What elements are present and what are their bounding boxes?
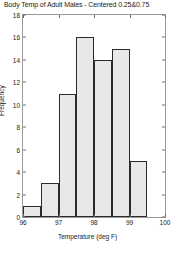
x-tick-mark: [23, 15, 24, 18]
y-tick-mark: [23, 172, 26, 173]
y-tick-mark: [23, 149, 26, 150]
plot-area: [23, 15, 165, 217]
y-tick-mark: [162, 194, 165, 195]
x-tick-label: 98: [90, 219, 97, 226]
y-tick-label: 4: [16, 169, 20, 176]
y-tick-mark: [23, 194, 26, 195]
y-tick-mark: [23, 82, 26, 83]
plot-frame: 02468101214161896979899100: [22, 14, 166, 218]
y-tick-mark: [23, 127, 26, 128]
y-tick-label: 8: [16, 124, 20, 131]
x-tick-mark: [130, 15, 131, 18]
x-tick-mark: [94, 214, 95, 217]
histogram-bar: [59, 94, 77, 217]
y-tick-label: 16: [13, 34, 20, 41]
y-tick-mark: [23, 59, 26, 60]
histogram-bar: [76, 37, 94, 217]
histogram-bar: [112, 49, 130, 217]
x-tick-mark: [59, 15, 60, 18]
y-tick-mark: [23, 37, 26, 38]
x-tick-label: 100: [160, 219, 171, 226]
histogram-bar: [94, 60, 112, 217]
y-axis-label: Frequency: [0, 85, 5, 116]
x-tick-mark: [130, 214, 131, 217]
y-tick-label: 18: [13, 12, 20, 19]
x-tick-label: 96: [19, 219, 26, 226]
histogram-figure: Body Temp of Adult Males - Centered 0.25…: [0, 0, 175, 253]
histogram-bar: [130, 161, 148, 217]
y-tick-mark: [162, 127, 165, 128]
x-tick-mark: [165, 214, 166, 217]
y-tick-mark: [162, 149, 165, 150]
y-tick-label: 2: [16, 191, 20, 198]
histogram-bar: [23, 206, 41, 217]
x-tick-mark: [59, 214, 60, 217]
x-tick-mark: [165, 15, 166, 18]
x-tick-label: 99: [126, 219, 133, 226]
y-tick-mark: [23, 104, 26, 105]
y-tick-mark: [162, 37, 165, 38]
y-tick-mark: [162, 104, 165, 105]
y-tick-mark: [162, 172, 165, 173]
x-tick-mark: [23, 214, 24, 217]
y-tick-label: 6: [16, 146, 20, 153]
y-tick-label: 12: [13, 79, 20, 86]
y-tick-mark: [162, 59, 165, 60]
y-tick-mark: [162, 82, 165, 83]
x-axis-label: Temperature (deg F): [0, 233, 175, 240]
x-tick-mark: [94, 15, 95, 18]
histogram-bar: [41, 183, 59, 217]
x-tick-label: 97: [55, 219, 62, 226]
y-tick-label: 14: [13, 56, 20, 63]
chart-title: Body Temp of Adult Males - Centered 0.25…: [4, 1, 149, 9]
y-tick-label: 10: [13, 101, 20, 108]
